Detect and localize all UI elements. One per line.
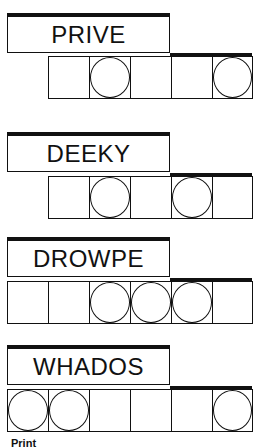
scrambled-word: WHADOS: [7, 345, 170, 385]
answer-cell[interactable]: [212, 282, 253, 324]
answer-cell[interactable]: [48, 57, 89, 99]
answer-cell-circled[interactable]: [171, 282, 212, 324]
answer-cell-circled[interactable]: [89, 177, 130, 219]
answer-cell[interactable]: [130, 177, 171, 219]
answer-cells: [48, 56, 253, 99]
answer-cells: [7, 389, 253, 432]
scrambled-word: PRIVE: [7, 13, 170, 53]
scrambled-word: DROWPE: [7, 237, 170, 277]
answer-cells: [7, 281, 253, 324]
answer-cell[interactable]: [171, 390, 212, 432]
answer-cell[interactable]: [130, 390, 171, 432]
answer-cell[interactable]: [48, 282, 89, 324]
answer-cell[interactable]: [171, 57, 212, 99]
answer-cell[interactable]: [7, 282, 48, 324]
answer-cell[interactable]: [89, 390, 130, 432]
answer-cell-circled[interactable]: [212, 390, 253, 432]
answer-cell-circled[interactable]: [171, 177, 212, 219]
scrambled-word: DEEKY: [7, 132, 170, 172]
answer-cell[interactable]: [212, 177, 253, 219]
answer-cell[interactable]: [130, 57, 171, 99]
answer-cell[interactable]: [48, 177, 89, 219]
answer-cell-circled[interactable]: [48, 390, 89, 432]
answer-cell-circled[interactable]: [89, 282, 130, 324]
answer-cell-circled[interactable]: [212, 57, 253, 99]
footer-text: Print: [11, 437, 36, 447]
answer-cell-circled[interactable]: [130, 282, 171, 324]
answer-cell-circled[interactable]: [89, 57, 130, 99]
answer-cell-circled[interactable]: [7, 390, 48, 432]
answer-cells: [48, 176, 253, 219]
